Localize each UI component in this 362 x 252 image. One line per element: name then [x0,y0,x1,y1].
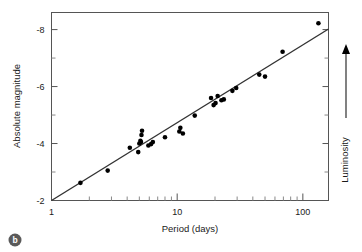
data-point [139,140,144,145]
x-tick-label: 100 [295,207,310,217]
data-point [136,150,141,155]
data-point [105,168,110,173]
data-point [316,21,321,26]
period-luminosity-chart: Absolute magnitude Period (days) -2-4-6-… [0,0,362,252]
luminosity-arrow-head [342,44,350,54]
data-point [151,140,156,145]
data-point [222,97,227,102]
data-point [215,94,220,99]
data-points [78,21,321,185]
data-point [192,113,197,118]
y-axis-title: Absolute magnitude [11,64,22,148]
data-point [163,135,168,140]
data-point [234,86,239,91]
fit-line-segment [52,29,329,200]
cepheid-period-luminosity-figure: Absolute magnitude Period (days) -2-4-6-… [0,0,362,252]
plot-frame [52,13,329,201]
data-point [257,72,262,77]
data-point [213,101,218,106]
y-tick-label: -2 [36,196,44,206]
data-point [178,126,183,131]
panel-badge: b [6,230,30,252]
data-point [78,181,83,186]
x-axis-ticks: 110100 [49,194,310,217]
luminosity-label: Luminosity [339,137,350,183]
data-point [209,96,214,101]
data-point [263,74,268,79]
y-tick-label: -4 [36,139,44,149]
data-point [181,131,186,136]
data-point [280,50,285,55]
luminosity-annotation: Luminosity [339,44,350,183]
data-point [230,89,235,94]
fit-line [52,29,329,200]
panel-badge-label: b [12,235,17,245]
x-tick-label: 1 [49,207,54,217]
data-point [140,128,145,133]
x-axis-title: Period (days) [162,223,219,234]
x-tick-label: 10 [172,207,182,217]
data-point [139,133,144,138]
y-tick-label: -6 [36,82,44,92]
data-point [128,146,133,151]
y-tick-label: -8 [36,25,44,35]
